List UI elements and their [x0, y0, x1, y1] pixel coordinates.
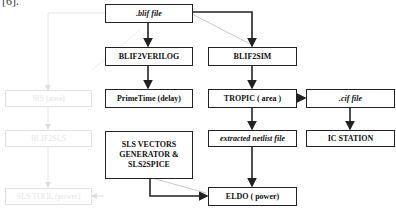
ghost-blif2sls-node: BLIF2SLS	[5, 130, 92, 147]
eldo-node: ELDO ( power)	[208, 187, 297, 206]
tropic-node: TROPIC ( area )	[208, 89, 297, 108]
blif2verilog-node: BLIF2VERILOG	[105, 47, 193, 66]
ic-station-node: IC STATION	[306, 130, 395, 147]
ghost-sls-tool-node: SLS TOOL (power)	[5, 188, 92, 205]
extracted-netlist-node: extracted netlist file	[208, 130, 297, 147]
ghost-sis-node: SIS (area)	[5, 90, 92, 107]
primetime-node: PrimeTime (delay)	[105, 89, 193, 108]
sls-vectors-node: SLS VECTORS GENERATOR & SLS2SPICE	[105, 131, 193, 179]
blif2sim-node: BLIF2SIM	[208, 47, 297, 66]
blif-file-node: .blif file	[105, 4, 193, 23]
cif-file-node: .cif file	[306, 89, 395, 108]
